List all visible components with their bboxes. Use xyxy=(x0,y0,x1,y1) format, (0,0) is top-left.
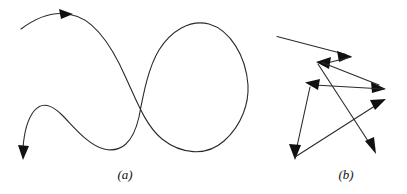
panel-b-arrow-bottom-left-icon xyxy=(289,144,301,160)
panel-a-caption: (a) xyxy=(95,168,155,181)
panel-b-arrow-right-mid-lower-icon xyxy=(370,99,386,110)
figure-page: (a) (b) xyxy=(0,0,407,194)
figure-canvas xyxy=(0,0,407,194)
panel-b-arrow-upleft-outer-icon xyxy=(305,79,320,90)
panel-b-segment-3 xyxy=(322,63,379,86)
panel-b-segment-6 xyxy=(295,104,378,157)
panel-b-caption: (b) xyxy=(316,168,376,181)
panel-b-polyline-group xyxy=(277,37,386,161)
panel-b-segment-1 xyxy=(277,37,346,55)
panel-a-curve-lead-in xyxy=(21,13,62,29)
panel-a-curve-group xyxy=(18,9,248,160)
panel-b-segment-7 xyxy=(318,64,370,144)
panel-b-arrow-right-mid-upper-icon xyxy=(371,82,386,93)
panel-a-arrow-bottom-left-icon xyxy=(18,145,29,160)
panel-a-curve-main xyxy=(23,15,248,152)
panel-b-segment-5 xyxy=(296,87,310,151)
panel-a-arrow-top-left-icon xyxy=(59,9,73,19)
